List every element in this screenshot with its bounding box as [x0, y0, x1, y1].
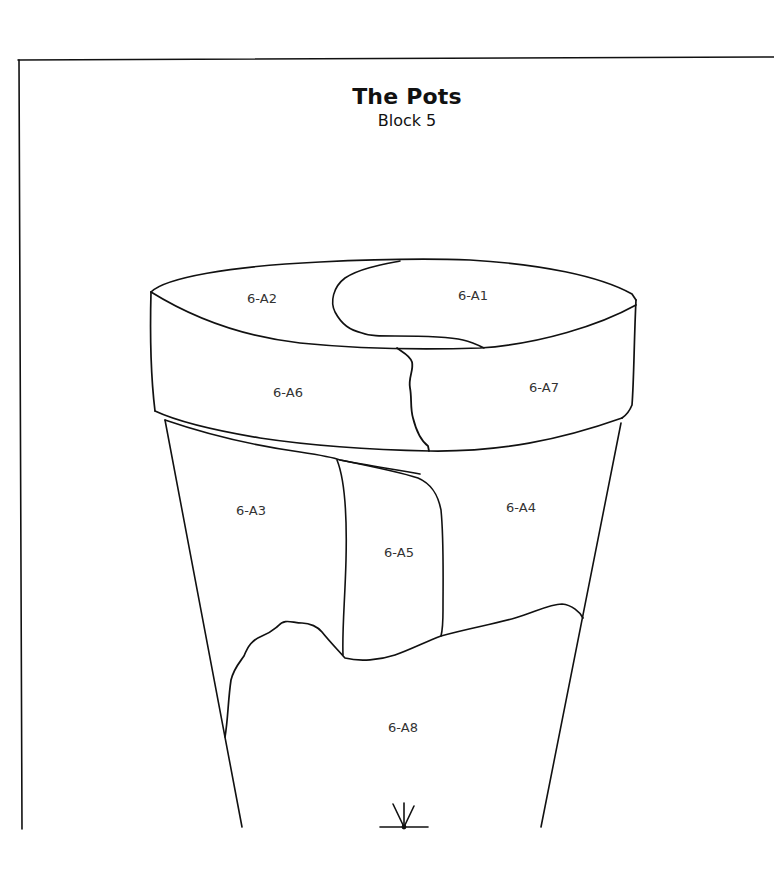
- sprout-mark-icon: [380, 803, 428, 829]
- lower-break-line: [225, 604, 583, 737]
- page-subtitle: Block 5: [20, 111, 774, 131]
- piece-label-6-A6: 6-A6: [273, 386, 303, 400]
- piece-label-6-A2: 6-A2: [247, 292, 277, 306]
- piece-label-6-A3: 6-A3: [236, 504, 266, 518]
- piece-label-6-A1: 6-A1: [458, 289, 488, 303]
- page-frame: [18, 57, 774, 829]
- piece-label-6-A7: 6-A7: [529, 381, 559, 395]
- rim-band-break-line: [397, 348, 429, 451]
- inner-ring-line: [165, 420, 420, 474]
- piece-label-6-A5: 6-A5: [384, 546, 414, 560]
- body-outline: [165, 420, 621, 827]
- rim-band-outline: [150, 292, 636, 451]
- pot-drawing: [0, 0, 774, 879]
- piece-label-6-A8: 6-A8: [388, 721, 418, 735]
- rim-top-break-line: [333, 261, 484, 348]
- piece-label-6-A4: 6-A4: [506, 501, 536, 515]
- page-title: The Pots: [20, 84, 774, 110]
